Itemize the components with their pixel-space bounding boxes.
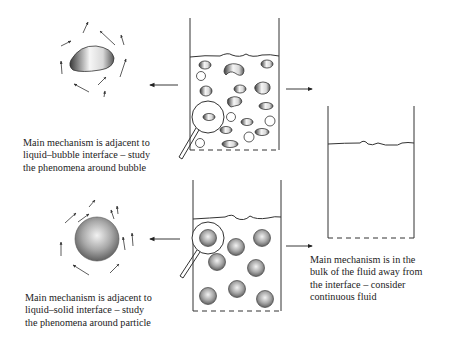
bubble-detail <box>61 22 126 97</box>
continuous-container <box>328 106 414 238</box>
diagram-canvas: Main mechanism is adjacent to liquid–bub… <box>0 0 450 338</box>
caption-particle: Main mechanism is adjacent to liquid–sol… <box>25 292 152 329</box>
caption-bulk: Main mechanism is in the bulk of the flu… <box>310 254 422 303</box>
particle-detail <box>61 200 133 275</box>
caption-bubble: Main mechanism is adjacent to liquid–bub… <box>23 137 150 174</box>
